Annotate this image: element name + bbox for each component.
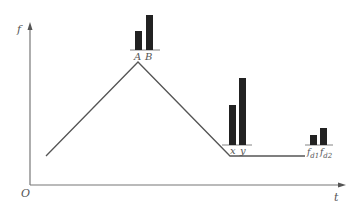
bar-fd1 (310, 135, 317, 145)
label-a: A (134, 52, 141, 62)
label-b: B (145, 52, 152, 62)
y-axis-label: f (17, 24, 21, 35)
bar-b (146, 15, 153, 50)
bar-x (229, 105, 236, 145)
frequency-curve (46, 62, 305, 156)
x-axis-arrow-icon (338, 183, 346, 188)
bar-fd2 (320, 128, 327, 145)
diagram-graphics (0, 0, 356, 210)
y-axis-arrow-icon (28, 22, 33, 30)
origin-label: O (21, 188, 30, 199)
label-fd1: fd1 (307, 148, 319, 160)
label-y: y (240, 146, 246, 156)
diagram: f t O A B x y fd1 fd2 (0, 0, 356, 210)
x-axis-label: t (334, 192, 338, 203)
label-x: x (230, 146, 236, 156)
bar-y (239, 78, 246, 145)
bar-a (135, 31, 142, 50)
label-fd2: fd2 (320, 148, 332, 160)
